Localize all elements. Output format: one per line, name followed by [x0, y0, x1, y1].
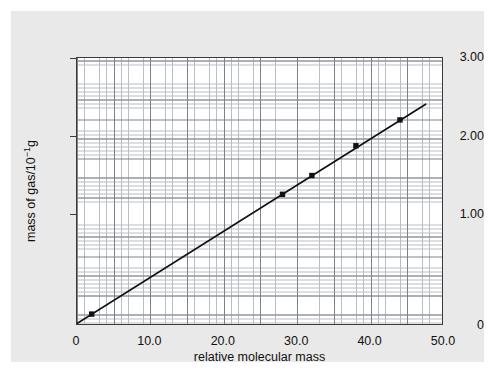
x-tick-label-3: 30.0 [266, 335, 326, 348]
x-axis-title: relative molecular mass [76, 350, 443, 364]
data-point [397, 117, 402, 122]
chart-figure: 3.00 2.00 1.00 0 0 10.0 20.0 30.0 40.0 5… [0, 0, 496, 379]
y-axis-title: mass of gas/10−1g [24, 140, 38, 242]
data-point [309, 173, 314, 178]
data-point [89, 311, 94, 316]
x-tick-label-5: 50.0 [413, 335, 473, 348]
y-tick-label-1: 1.00 [440, 208, 484, 221]
y-axis-title-exponent: −1 [22, 147, 32, 157]
y-tick-label-2: 2.00 [440, 130, 484, 143]
y-axis-title-unit: g [24, 140, 38, 147]
data-point [280, 192, 285, 197]
trend-line [77, 104, 426, 323]
y-axis-title-wrap: mass of gas/10−1g [21, 57, 41, 325]
x-tick-label-1: 10.0 [119, 335, 179, 348]
y-axis-title-text: mass of gas/10 [24, 157, 38, 242]
y-tick-label-0: 0 [440, 319, 484, 332]
x-tick-label-2: 20.0 [193, 335, 253, 348]
data-series-layer [77, 58, 443, 325]
plot-area [76, 57, 443, 325]
data-point [353, 143, 358, 148]
plot-content [77, 104, 426, 323]
x-tick-label-4: 40.0 [340, 335, 400, 348]
y-tick-label-3: 3.00 [440, 51, 484, 64]
x-tick-label-0: 0 [46, 335, 106, 348]
